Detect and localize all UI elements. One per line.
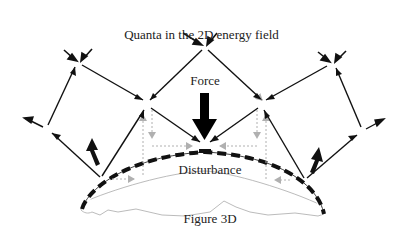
arrow-right-mid-to-bottom xyxy=(210,108,258,142)
figure-3d-outline xyxy=(81,171,324,216)
figure-3d-label: Figure 3D xyxy=(160,212,260,225)
force-label: Force xyxy=(170,74,240,87)
force-arrow-icon xyxy=(192,93,217,140)
arrow-left-mid-to-bottom xyxy=(151,108,200,142)
disturbance-label: Disturbance xyxy=(160,163,260,176)
arrow-right-far-to-right-upper xyxy=(336,68,361,127)
arrow-left-upper-to-left-mid xyxy=(82,65,143,100)
response-arrow-left-icon xyxy=(86,138,100,166)
arrow-left-far-to-left-upper xyxy=(48,67,75,125)
bottom-node-marker xyxy=(199,149,211,153)
diagram-title: Quanta in the 2D energy field xyxy=(0,28,403,41)
arrow-right-upper-to-right-mid xyxy=(266,66,327,100)
